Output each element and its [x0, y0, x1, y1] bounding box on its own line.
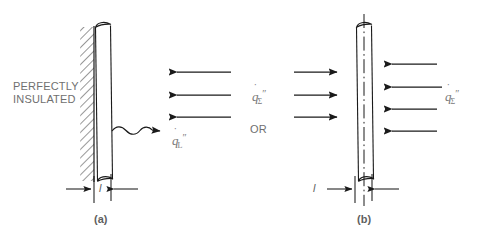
panel-b-group [294, 14, 442, 206]
insulation-wall [79, 26, 94, 182]
flux-label-emitted-a: ˙ q L″ [172, 132, 186, 150]
diagram-vector-layer [0, 0, 490, 240]
slab-a [96, 22, 113, 181]
incident-arrows-a [177, 72, 231, 117]
emitted-flux-wavy-arrow [112, 127, 160, 134]
flux-symbol-bl: ˙ q [252, 89, 259, 105]
flux-dot-bl: ˙ [253, 82, 257, 93]
panel-caption-a: (a) [94, 213, 107, 226]
flux-dot-br: ˙ [446, 82, 450, 93]
insulation-label-line2: INSULATED [13, 93, 79, 106]
panel-a-group [66, 22, 231, 203]
incident-arrows-b-right [392, 64, 442, 131]
flux-symbol-br: ˙ q [445, 89, 452, 105]
flux-symbol-a: ˙ q [172, 133, 179, 149]
flux-label-right-b: ˙ q Σ″ [445, 88, 459, 106]
figure-canvas: PERFECTLY INSULATED ˙ q L″ ˙ q Σ″ OR ˙ q… [0, 0, 490, 240]
flux-superscript-bl: ″ [262, 88, 266, 99]
insulation-label: PERFECTLY INSULATED [13, 80, 79, 106]
dimension-label-a: l [99, 182, 101, 195]
insulation-label-line1: PERFECTLY [13, 80, 79, 93]
flux-dot-a: ˙ [173, 126, 177, 137]
or-label: OR [250, 123, 267, 136]
slab-b [357, 22, 374, 181]
flux-superscript-a: ″ [182, 132, 186, 143]
incident-arrows-b-left [294, 72, 337, 117]
dimension-a [66, 174, 138, 203]
panel-caption-b: (b) [357, 213, 371, 226]
dimension-b [327, 174, 399, 203]
dimension-label-b: l [313, 182, 315, 195]
flux-label-left-b: ˙ q Σ″ [252, 88, 266, 106]
flux-superscript-br: ″ [455, 88, 459, 99]
